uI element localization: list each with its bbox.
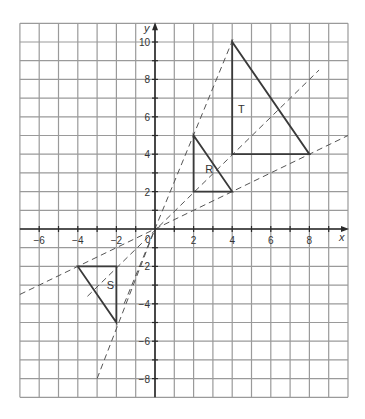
- triangle-label-S: S: [107, 279, 114, 291]
- y-tick-label: 6: [144, 112, 150, 123]
- x-tick-label: 2: [191, 235, 197, 246]
- coordinate-grid: x y 0 −6−4−22468108642−2−4−6−8 TRS: [0, 0, 365, 419]
- grid-lines: [20, 23, 348, 397]
- y-tick-label: −6: [139, 336, 151, 347]
- origin-label: 0: [145, 234, 151, 245]
- dashed-ray: [20, 136, 348, 295]
- y-tick-label: 8: [144, 74, 150, 85]
- x-tick-label: 8: [307, 235, 313, 246]
- x-tick-label: −6: [33, 235, 45, 246]
- y-tick-label: −8: [139, 374, 151, 385]
- dashed-ray: [87, 70, 319, 296]
- triangle-label-T: T: [238, 103, 245, 115]
- y-tick-label: −4: [139, 299, 151, 310]
- dashed-rays: [20, 36, 348, 378]
- y-tick-label: 2: [144, 187, 150, 198]
- x-tick-label: −2: [111, 235, 123, 246]
- y-tick-label: 4: [144, 149, 150, 160]
- x-tick-label: 6: [268, 235, 274, 246]
- y-tick-label: −2: [139, 261, 151, 272]
- y-axis-label: y: [143, 22, 151, 34]
- x-tick-label: −4: [72, 235, 84, 246]
- x-axis-label: x: [338, 231, 345, 243]
- triangle-label-R: R: [205, 163, 213, 175]
- y-tick-label: 10: [139, 37, 151, 48]
- x-tick-label: 4: [229, 235, 235, 246]
